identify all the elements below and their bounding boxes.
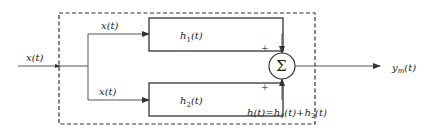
input-junction-arrow (55, 64, 61, 68)
equivalent-response-label: h(t)=h1(t)+h2(t) (247, 107, 327, 120)
block-diagram: x(t) x(t) x(t) h1(t) h2(t) Σ + + ym(t) h… (0, 0, 426, 134)
branch-bottom-label: x(t) (99, 86, 117, 97)
sigma-symbol: Σ (276, 57, 287, 75)
output-label: ym(t) (391, 62, 416, 75)
plus-top: + (261, 43, 269, 53)
plus-bottom: + (261, 82, 269, 92)
branch-top-label: x(t) (101, 20, 119, 31)
input-label: x(t) (26, 52, 44, 63)
